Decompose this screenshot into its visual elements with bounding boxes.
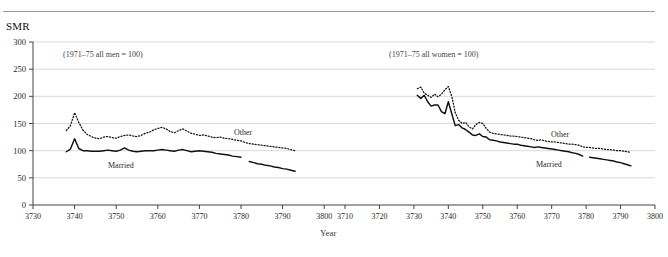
x-tick-label: 3780 — [221, 212, 261, 221]
y-tick-label: 0 — [0, 200, 26, 210]
y-tick-label: 50 — [0, 173, 26, 183]
y-tick-label: 150 — [0, 119, 26, 129]
x-tick-label: 3800 — [635, 212, 668, 221]
x-tick-label: 3750 — [96, 212, 136, 221]
y-tick-label: 100 — [0, 146, 26, 156]
x-tick-label: 3740 — [55, 212, 95, 221]
x-tick-label: 3790 — [263, 212, 303, 221]
y-tick-label: 300 — [0, 37, 26, 47]
y-tick-label: 200 — [0, 91, 26, 101]
x-tick-label: 3770 — [179, 212, 219, 221]
y-tick-label: 250 — [0, 64, 26, 74]
x-tick-label: 3730 — [13, 212, 53, 221]
x-tick-label: 3760 — [138, 212, 178, 221]
